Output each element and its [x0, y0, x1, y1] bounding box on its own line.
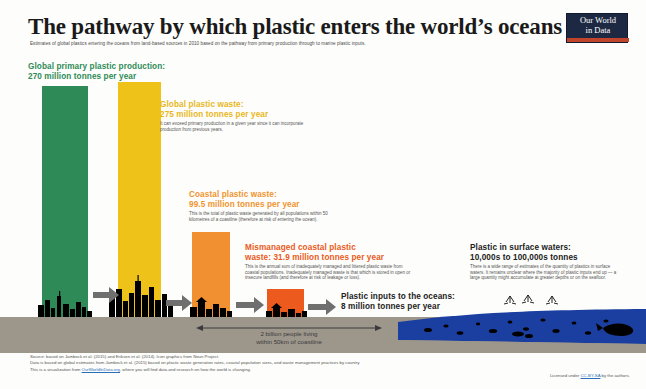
flow-arrow-4 — [308, 299, 336, 315]
annotation-global-waste-heading: Global plastic waste: — [160, 100, 310, 110]
license-pre: Licensed under — [550, 373, 581, 378]
annotation-surface-waters-body: There is a wide range of estimates of th… — [470, 264, 620, 281]
annotation-production: Global primary plastic production: 270 m… — [28, 62, 188, 81]
footer-line-3-post: , where you will find data and research … — [120, 367, 251, 372]
measure-line-1: 2 billion people living — [196, 330, 382, 338]
annotation-mismanaged-waste-body: This is the annual sum of inadequately m… — [245, 264, 415, 281]
annotation-coastal-waste-value: 99.5 million tonnes per year — [189, 200, 341, 210]
ourworldindata-link[interactable]: OurWorldInData.org — [82, 367, 120, 372]
annotation-ocean-inputs-heading: Plastic inputs to the oceans: — [341, 292, 491, 302]
annotation-global-waste: Global plastic waste: 275 million tonnes… — [160, 100, 310, 132]
city-skyline-silhouette-4 — [264, 303, 308, 317]
annotation-production-heading: Global primary plastic production: — [28, 62, 188, 72]
annotation-ocean-inputs: Plastic inputs to the oceans: 8 million … — [341, 292, 491, 311]
annotation-surface-waters-heading: Plastic in surface waters: — [470, 243, 620, 253]
seabirds-group — [502, 290, 568, 308]
annotation-production-value: 270 million tonnes per year — [28, 72, 188, 82]
coastline-measure-label: 2 billion people living within 50km of c… — [196, 330, 382, 345]
license-link[interactable]: CC-BY-SA — [580, 373, 600, 378]
annotation-coastal-waste-heading: Coastal plastic waste: — [189, 190, 341, 200]
annotation-coastal-waste-body: This is the total of plastic waste gener… — [189, 211, 341, 222]
annotation-mismanaged-waste: Mismanaged coastal plastic waste: 31.9 m… — [245, 243, 415, 281]
city-skyline-silhouette-3 — [188, 297, 234, 317]
infographic-canvas: The pathway by which plastic enters the … — [0, 0, 646, 389]
measure-line-2: within 50km of coastline — [196, 338, 382, 346]
license-note: Licensed under CC-BY-SA by the authors. — [470, 373, 630, 378]
chart-plot-area: 2 billion people living within 50km of c… — [0, 0, 646, 353]
annotation-coastal-waste: Coastal plastic waste: 99.5 million tonn… — [189, 190, 341, 222]
annotation-surface-waters: Plastic in surface waters: 10,000s to 10… — [470, 243, 620, 281]
footer-line-3-pre: This is a visualization from — [30, 367, 82, 372]
annotation-mismanaged-waste-heading: Mismanaged coastal plastic — [245, 243, 415, 253]
flow-arrow-1 — [93, 287, 119, 303]
bar-global-primary-plastic-production — [42, 86, 88, 317]
footer: Source: based on Jambeck et al. (2015) a… — [30, 354, 620, 373]
city-skyline-silhouette-1 — [36, 291, 94, 317]
annotation-ocean-inputs-value: 8 million tonnes per year — [341, 302, 491, 312]
annotation-surface-waters-value: 10,000s to 100,000s tonnes — [470, 253, 620, 263]
license-post: by the authors. — [600, 373, 630, 378]
annotation-global-waste-value: 275 million tonnes per year — [160, 110, 310, 120]
annotation-mismanaged-waste-value: waste: 31.9 million tonnes per year — [245, 253, 415, 263]
flow-arrow-3 — [236, 297, 264, 313]
annotation-global-waste-body: It can exceed primary production in a gi… — [160, 121, 310, 132]
flow-arrow-2 — [166, 295, 192, 311]
